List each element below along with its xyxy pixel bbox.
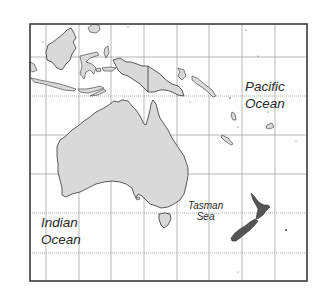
java (31, 78, 76, 91)
fiji (266, 123, 274, 129)
sulawesi (80, 52, 99, 79)
australia (57, 100, 188, 208)
tasman-sea-label-line1: Tasman (188, 201, 223, 211)
indian-ocean-label: Indian Ocean (41, 216, 81, 246)
new-caledonia (221, 135, 233, 145)
pacific-ocean-label: Pacific Ocean (245, 80, 285, 110)
mindanao (88, 24, 100, 33)
tasman-sea-label: Tasman Sea (188, 201, 223, 222)
buru (96, 68, 101, 72)
chatham-islands (285, 229, 287, 231)
halmahera (104, 46, 109, 58)
tasman-sea-label-line2: Sea (188, 212, 223, 222)
new-zealand-north-island (251, 193, 270, 219)
seram (102, 67, 116, 71)
vanuatu (231, 112, 236, 120)
new-guinea (113, 58, 184, 96)
pacific-ocean-label-line1: Pacific (245, 80, 285, 94)
pacific-ocean-label-line2: Ocean (245, 97, 285, 111)
sumatra-tip (30, 62, 37, 72)
tasmania (159, 213, 171, 228)
new-zealand-south-island (231, 219, 258, 241)
map (0, 0, 322, 296)
indian-ocean-label-line1: Indian (41, 216, 81, 230)
new-britain (178, 68, 186, 80)
solomon-islands (192, 76, 216, 97)
indian-ocean-label-line2: Ocean (41, 233, 81, 247)
borneo (46, 28, 76, 70)
